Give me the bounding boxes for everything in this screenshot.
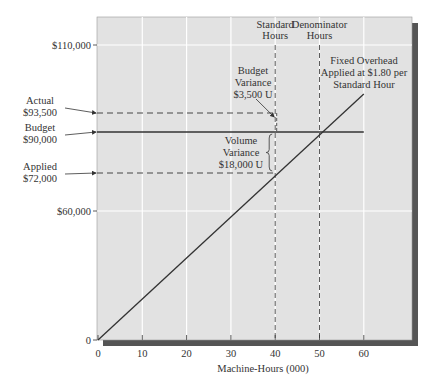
x-tick-label: 50 bbox=[314, 348, 325, 359]
callout-arrow-budget bbox=[65, 132, 96, 135]
x-axis-label: Machine-Hours (000) bbox=[217, 363, 309, 375]
applied-rate-label-line: Fixed Overhead bbox=[330, 55, 398, 66]
x-tick-label: 60 bbox=[359, 348, 370, 359]
applied-rate-label: Fixed OverheadApplied at $1.80 perStanda… bbox=[321, 55, 408, 90]
volume-variance-label: VolumeVariance$18,000 U bbox=[219, 135, 264, 170]
callout-actual-line: Actual bbox=[26, 95, 54, 106]
x-tick-label: 30 bbox=[226, 348, 237, 359]
volume-variance-label-line: $18,000 U bbox=[219, 159, 264, 170]
applied-rate-label-line: Standard Hour bbox=[333, 79, 395, 90]
volume-variance-label-line: Variance bbox=[223, 147, 260, 158]
x-tick-label: 40 bbox=[270, 348, 281, 359]
callout-arrow-applied bbox=[65, 173, 96, 174]
callout-budget-line: Budget bbox=[25, 122, 55, 133]
callout-budget-line: $90,000 bbox=[23, 134, 57, 145]
budget-variance-label: BudgetVariance$3,500 U bbox=[233, 65, 273, 100]
volume-variance-label-line: Volume bbox=[225, 135, 258, 146]
reference-label-denominator-hours-line: Hours bbox=[307, 30, 333, 41]
x-tick-label: 0 bbox=[95, 348, 100, 359]
callout-applied: Applied$72,000 bbox=[23, 161, 58, 184]
x-tick-label: 20 bbox=[181, 348, 192, 359]
callout-actual-line: $93,500 bbox=[23, 107, 57, 118]
callout-budget: Budget$90,000 bbox=[23, 122, 57, 145]
budget-variance-label-line: $3,500 U bbox=[233, 89, 273, 100]
budget-variance-label-line: Budget bbox=[238, 65, 268, 76]
fixed-overhead-chart: 01020304050600$60,000$110,000Machine-Hou… bbox=[0, 0, 439, 390]
y-tick-label: 0 bbox=[86, 335, 91, 346]
x-tick-label: 10 bbox=[137, 348, 148, 359]
callout-arrow-actual bbox=[65, 108, 96, 113]
reference-label-denominator-hours-line: Denominator bbox=[292, 19, 348, 30]
applied-rate-label-line: Applied at $1.80 per bbox=[321, 67, 408, 78]
y-tick-label: $110,000 bbox=[52, 40, 91, 51]
callout-applied-line: $72,000 bbox=[23, 173, 57, 184]
budget-variance-label-line: Variance bbox=[235, 77, 272, 88]
reference-label-standard-hours-line: Standard bbox=[257, 19, 295, 30]
callout-applied-line: Applied bbox=[23, 161, 58, 172]
reference-label-standard-hours-line: Hours bbox=[262, 30, 288, 41]
y-tick-label: $60,000 bbox=[57, 206, 91, 217]
callout-actual: Actual$93,500 bbox=[23, 95, 57, 118]
